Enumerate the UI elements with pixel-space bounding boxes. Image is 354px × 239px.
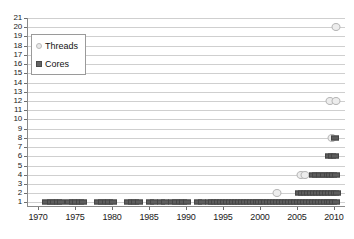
x-tick-label-1975: 1975 — [58, 213, 92, 222]
y-tick-mark-19 — [24, 36, 27, 37]
y-tick-mark-12 — [24, 101, 27, 102]
y-tick-label-7: 7 — [2, 143, 22, 151]
y-tick-mark-16 — [24, 64, 27, 65]
gridline-y-14 — [28, 83, 345, 84]
y-tick-mark-9 — [24, 129, 27, 130]
data-point-cores — [135, 200, 143, 205]
cores-marker-icon — [36, 61, 42, 67]
x-tick-label-1985: 1985 — [132, 213, 166, 222]
y-tick-mark-4 — [24, 175, 27, 176]
x-tick-mark-1975 — [75, 207, 76, 210]
y-tick-mark-3 — [24, 184, 27, 185]
data-point-threads — [331, 97, 340, 105]
y-tick-mark-15 — [24, 73, 27, 74]
data-point-threads — [332, 23, 341, 31]
y-tick-mark-14 — [24, 83, 27, 84]
x-tick-mark-2005 — [297, 207, 298, 210]
y-tick-label-9: 9 — [2, 125, 22, 133]
y-tick-mark-6 — [24, 156, 27, 157]
data-point-cores — [332, 172, 340, 177]
x-tick-mark-1995 — [223, 207, 224, 210]
y-tick-label-17: 17 — [2, 51, 22, 59]
y-tick-label-14: 14 — [2, 79, 22, 87]
x-tick-label-1995: 1995 — [206, 213, 240, 222]
y-tick-label-16: 16 — [2, 60, 22, 68]
data-point-cores — [333, 191, 341, 196]
gridline-y-21 — [28, 18, 345, 19]
gridline-y-10 — [28, 119, 345, 120]
threads-marker-icon — [36, 43, 42, 49]
data-point-threads — [273, 189, 282, 197]
y-tick-label-1: 1 — [2, 198, 22, 206]
y-tick-label-3: 3 — [2, 180, 22, 188]
data-point-cores — [332, 200, 340, 205]
y-tick-label-4: 4 — [2, 171, 22, 179]
y-tick-label-12: 12 — [2, 97, 22, 105]
y-tick-label-8: 8 — [2, 134, 22, 142]
gridline-y-8 — [28, 138, 345, 139]
gridline-y-9 — [28, 129, 345, 130]
y-tick-label-2: 2 — [2, 189, 22, 197]
gridline-y-12 — [28, 101, 345, 102]
x-tick-mark-1980 — [112, 207, 113, 210]
data-point-cores — [331, 154, 339, 159]
y-tick-mark-10 — [24, 119, 27, 120]
y-tick-label-6: 6 — [2, 152, 22, 160]
gridline-y-11 — [28, 110, 345, 111]
y-tick-label-21: 21 — [2, 14, 22, 22]
x-tick-mark-1985 — [149, 207, 150, 210]
data-point-cores — [331, 135, 339, 140]
y-tick-label-5: 5 — [2, 162, 22, 170]
x-tick-label-2010: 2010 — [317, 213, 351, 222]
data-point-threads — [300, 171, 309, 179]
y-tick-label-11: 11 — [2, 106, 22, 114]
y-tick-mark-21 — [24, 18, 27, 19]
data-point-cores — [79, 200, 87, 205]
gridline-y-3 — [28, 184, 345, 185]
legend-label-threads: Threads — [45, 42, 78, 51]
y-tick-mark-7 — [24, 147, 27, 148]
x-tick-mark-1970 — [38, 207, 39, 210]
y-tick-mark-2 — [24, 193, 27, 194]
y-tick-mark-17 — [24, 55, 27, 56]
y-tick-mark-8 — [24, 138, 27, 139]
x-tick-mark-1990 — [186, 207, 187, 210]
y-tick-mark-11 — [24, 110, 27, 111]
y-tick-label-18: 18 — [2, 42, 22, 50]
chart-container: Processor core and thread counts 1234567… — [0, 0, 354, 239]
gridline-y-6 — [28, 156, 345, 157]
gridline-y-13 — [28, 92, 345, 93]
x-tick-label-1970: 1970 — [21, 213, 55, 222]
x-tick-mark-2000 — [260, 207, 261, 210]
gridline-y-20 — [28, 27, 345, 28]
x-tick-label-1990: 1990 — [169, 213, 203, 222]
y-tick-label-20: 20 — [2, 23, 22, 31]
x-tick-label-1980: 1980 — [95, 213, 129, 222]
y-tick-label-15: 15 — [2, 69, 22, 77]
x-tick-label-2000: 2000 — [243, 213, 277, 222]
x-tick-label-2005: 2005 — [280, 213, 314, 222]
y-tick-mark-13 — [24, 92, 27, 93]
y-tick-mark-1 — [24, 202, 27, 203]
legend-item-cores: Cores — [36, 59, 69, 69]
y-tick-label-10: 10 — [2, 115, 22, 123]
y-tick-mark-20 — [24, 27, 27, 28]
data-point-cores — [109, 200, 117, 205]
gridline-y-5 — [28, 166, 345, 167]
data-point-cores — [183, 200, 191, 205]
y-tick-mark-18 — [24, 46, 27, 47]
legend-label-cores: Cores — [45, 60, 69, 69]
chart-legend: Threads Cores — [31, 34, 86, 75]
x-tick-mark-2010 — [334, 207, 335, 210]
y-tick-label-13: 13 — [2, 88, 22, 96]
y-tick-label-19: 19 — [2, 32, 22, 40]
legend-item-threads: Threads — [36, 41, 78, 51]
y-tick-mark-5 — [24, 166, 27, 167]
gridline-y-7 — [28, 147, 345, 148]
